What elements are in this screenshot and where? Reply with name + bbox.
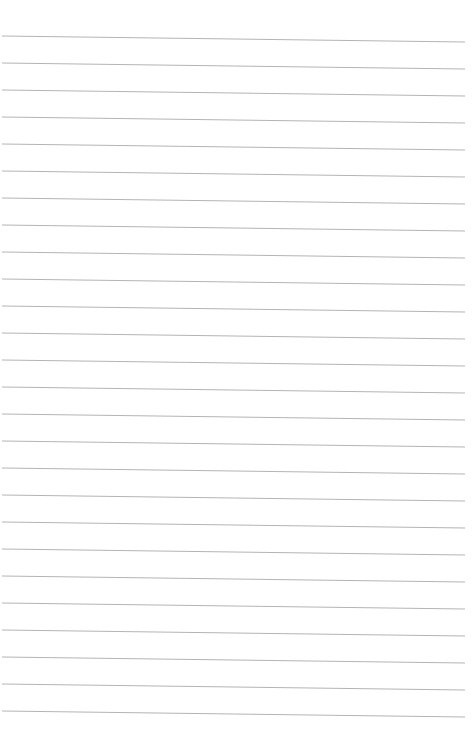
- ruled-line: [2, 252, 465, 258]
- ruled-line: [2, 144, 465, 150]
- ruled-line: [2, 306, 465, 312]
- ruled-line: [2, 522, 465, 528]
- ruled-line: [2, 117, 465, 123]
- ruled-line: [2, 414, 465, 420]
- ruled-line: [2, 171, 465, 177]
- ruled-lines: [0, 0, 474, 736]
- ruled-line: [2, 90, 465, 96]
- ruled-line: [2, 576, 465, 582]
- ruled-line: [2, 63, 465, 69]
- ruled-line: [2, 360, 465, 366]
- ruled-line: [2, 387, 465, 393]
- ruled-line: [2, 333, 465, 339]
- ruled-line: [2, 225, 465, 231]
- ruled-line: [2, 441, 465, 447]
- ruled-line: [2, 549, 465, 555]
- ruled-line: [2, 495, 465, 501]
- ruled-line: [2, 279, 465, 285]
- ruled-line: [2, 711, 465, 717]
- lined-paper-page: [0, 0, 474, 736]
- ruled-line: [2, 684, 465, 690]
- ruled-line: [2, 657, 465, 663]
- ruled-line: [2, 198, 465, 204]
- ruled-line: [2, 603, 465, 609]
- ruled-line: [2, 36, 465, 42]
- ruled-line: [2, 630, 465, 636]
- ruled-line: [2, 468, 465, 474]
